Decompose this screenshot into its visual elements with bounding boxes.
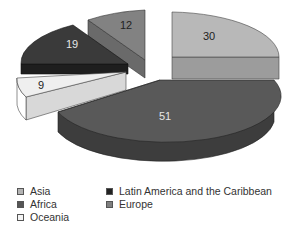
label-europe: 12 <box>120 19 132 31</box>
legend-label-africa: Africa <box>30 198 57 211</box>
legend-item-oceania: Oceania <box>17 211 69 224</box>
legend-item-latam: Latin America and the Caribbean <box>106 185 272 198</box>
slice-asia: 30 <box>172 12 279 79</box>
label-latam: 19 <box>66 38 78 50</box>
legend-label-europe: Europe <box>119 198 153 211</box>
legend-swatch-latam <box>106 188 113 195</box>
legend-label-oceania: Oceania <box>30 211 69 224</box>
pie-chart-plot: 51 30 12 19 9 <box>0 0 296 180</box>
legend-swatch-africa <box>17 201 24 208</box>
legend-swatch-asia <box>17 188 24 195</box>
legend-item-africa: Africa <box>17 198 69 211</box>
legend-swatch-oceania <box>17 214 24 221</box>
label-oceania: 9 <box>38 79 44 91</box>
legend-label-asia: Asia <box>30 185 50 198</box>
label-africa: 51 <box>159 110 171 122</box>
pie-chart: 51 30 12 19 9 <box>0 0 296 231</box>
legend-swatch-europe <box>106 201 113 208</box>
label-asia: 30 <box>203 30 215 42</box>
legend-label-latam: Latin America and the Caribbean <box>119 185 272 198</box>
legend-item-asia: Asia <box>17 185 69 198</box>
legend-item-europe: Europe <box>106 198 272 211</box>
